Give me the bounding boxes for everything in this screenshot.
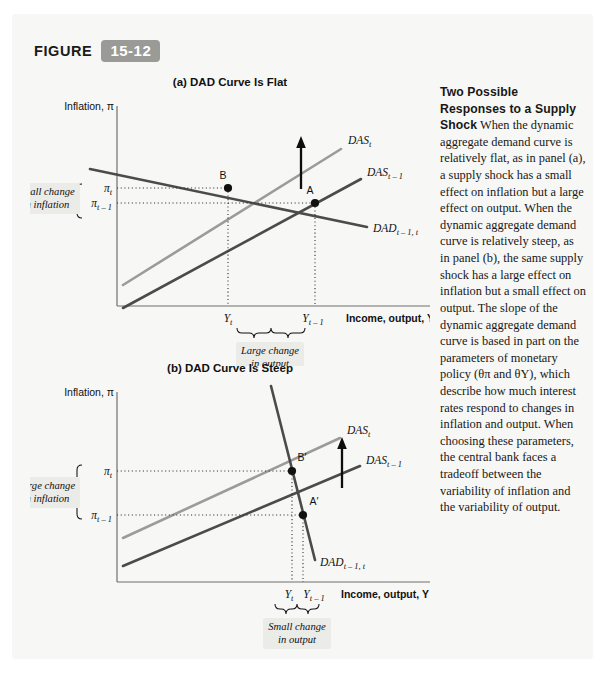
panel-b-chart: Inflation, π DASt DASt – 1 DADt – 1, t <box>30 378 430 656</box>
panel-a: (a) DAD Curve Is Flat Inflation, π DASt … <box>30 76 430 366</box>
panel-b-shift-arrow <box>337 437 347 488</box>
panel-a-chart: Inflation, π DASt DASt – 1 DADt – 1, t <box>30 92 430 366</box>
panel-a-xtick-y-t-1: Yt – 1 <box>302 312 323 327</box>
panel-b-xtick-y-t-1: Yt – 1 <box>303 588 324 603</box>
panel-b-y-axis-label: Inflation, π <box>64 386 114 398</box>
panel-a-inflation-callout-line2: in inflation <box>30 199 69 210</box>
caption-body: When the dynamic aggregate demand curve … <box>440 118 586 514</box>
panel-a-point-a-marker <box>311 199 319 207</box>
panel-a-label-dad: DADt – 1, t <box>372 222 419 237</box>
figure-label: FIGURE <box>34 43 92 59</box>
panel-b: (b) DAD Curve Is Steep Inflation, π DASt… <box>30 362 430 654</box>
panel-a-point-a-label: A <box>306 184 313 196</box>
panel-b-label-das-t: DASt <box>346 424 371 439</box>
panel-b-label-das-t-1: DASt – 1 <box>365 454 402 469</box>
panel-b-point-a-prime-marker <box>299 511 307 519</box>
panel-a-label-das-t: DASt <box>347 134 372 149</box>
panel-a-curve-das-t <box>123 149 341 285</box>
panel-b-curve-das-t-1 <box>123 466 360 566</box>
figure-number-badge: 15-12 <box>101 40 160 62</box>
panel-a-output-brace <box>237 328 305 338</box>
panel-a-x-axis-label: Income, output, Y <box>346 312 430 324</box>
panel-b-inflation-callout-line1: Large change <box>30 480 75 491</box>
panel-b-ytick-pi-t-1: πt – 1 <box>91 509 112 524</box>
panel-b-inflation-callout-line2: in inflation <box>30 493 69 504</box>
panel-a-y-axis-label: Inflation, π <box>64 100 114 112</box>
figure-header: FIGURE 15-12 <box>34 40 160 62</box>
panel-a-ytick-pi-t-1: πt – 1 <box>91 197 112 212</box>
panel-b-point-b-prime-label: B′ <box>298 451 307 463</box>
panel-b-point-a-prime-label: A′ <box>310 495 319 507</box>
panel-a-shift-arrow <box>296 136 306 189</box>
panel-b-point-b-prime-marker <box>288 467 296 475</box>
panel-a-label-das-t-1: DASt – 1 <box>366 166 403 181</box>
figure-page: FIGURE 15-12 (a) DAD Curve Is Flat Infla… <box>0 0 605 673</box>
panel-a-ytick-pi-t: πt <box>104 182 113 197</box>
figure-caption: Two Possible Responses to a Supply Shock… <box>440 84 586 516</box>
panel-b-x-axis-label: Income, output, Y <box>341 588 429 600</box>
panel-b-xtick-y-t: Yt <box>285 588 294 603</box>
panel-b-output-callout-line2: in output <box>278 634 317 645</box>
panel-b-output-brace <box>275 604 319 614</box>
panel-a-point-b-marker <box>224 184 232 192</box>
panel-b-label-dad: DADt – 1, t <box>319 556 366 571</box>
panel-a-output-callout-line1: Large change <box>240 345 299 356</box>
panel-a-curve-das-t-1 <box>123 179 361 308</box>
panel-b-title: (b) DAD Curve Is Steep <box>30 362 430 374</box>
figure-card: FIGURE 15-12 (a) DAD Curve Is Flat Infla… <box>12 14 593 659</box>
panel-a-inflation-callout-line1: Small change <box>30 186 75 197</box>
panel-a-point-b-label: B <box>219 169 226 181</box>
panel-a-xtick-y-t: Yt <box>224 312 233 327</box>
panel-b-output-callout-line1: Small change <box>268 621 326 632</box>
panel-a-title: (a) DAD Curve Is Flat <box>30 76 430 88</box>
panel-b-ytick-pi-t: πt <box>104 465 113 480</box>
